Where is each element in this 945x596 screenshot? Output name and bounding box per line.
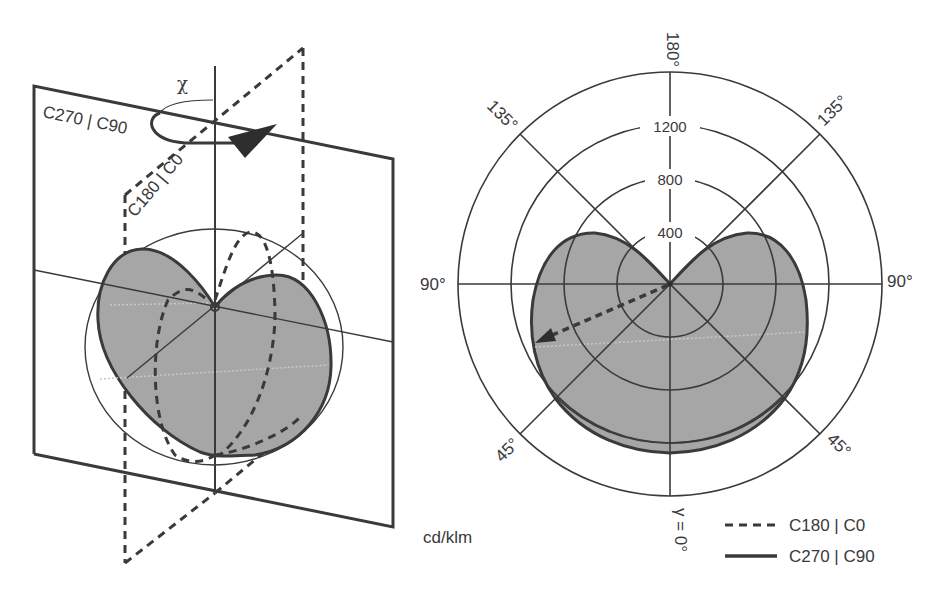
angle-label-135-right: 135°: [813, 92, 851, 130]
ring-label-800: 800: [657, 171, 682, 188]
chi-angle-arc: [160, 100, 213, 113]
angle-label-180: 180°: [663, 32, 682, 67]
ring-label-1200: 1200: [653, 118, 686, 135]
plane-dashed-label: C180 | C0: [124, 150, 188, 221]
legend-label-c270-c90: C270 | C90: [789, 547, 875, 566]
ring-label-400: 400: [657, 224, 682, 241]
right-panel-polar-diagram: 400 800 1200 180° 135° 135° 90° 90° 45° …: [420, 32, 913, 566]
unit-label: cd/klm: [423, 528, 472, 547]
left-panel-3d-sketch: χ C270 | C90 C180 | C0: [34, 48, 393, 563]
chi-symbol: χ: [177, 73, 188, 94]
angle-label-90-left: 90°: [420, 275, 446, 294]
angle-label-135-left: 135°: [483, 96, 521, 134]
angle-label-45-left: 45°: [491, 434, 523, 466]
plane-solid-label: C270 | C90: [41, 102, 129, 138]
legend: C180 | C0 C270 | C90: [725, 516, 875, 566]
legend-label-c180-c0: C180 | C0: [789, 516, 865, 535]
angle-label-90-right: 90°: [887, 272, 913, 291]
angle-label-gamma-0: γ = 0°: [671, 508, 690, 552]
polar-origin: [668, 282, 673, 287]
luminous-intensity-figure: χ C270 | C90 C180 | C0: [0, 0, 945, 596]
angle-label-45-right: 45°: [823, 429, 855, 461]
